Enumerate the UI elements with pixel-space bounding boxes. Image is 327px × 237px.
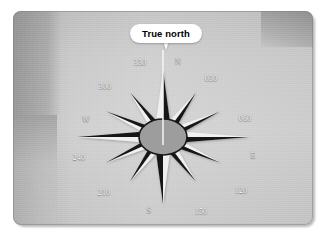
compass-label-120: 120 <box>235 186 248 195</box>
compass-label-210: 210 <box>98 188 111 197</box>
callout-label: True north <box>142 28 190 39</box>
compass-label-n: N <box>175 57 181 66</box>
compass-label-030: 030 <box>205 74 218 83</box>
compass-label-w: W <box>82 115 90 124</box>
compass-label-150: 150 <box>195 207 208 216</box>
compass-label-s: S <box>147 206 152 215</box>
compass-label-060: 060 <box>239 114 252 123</box>
compass-label-240: 240 <box>73 153 86 162</box>
compass-label-e: E <box>250 151 255 160</box>
true-north-callout: True north <box>130 24 202 43</box>
compass-label-300: 300 <box>99 82 112 91</box>
compass-label-330: 330 <box>134 58 147 67</box>
compass-rose-figure: N030060E120150S210240W300330 True north <box>0 0 327 237</box>
